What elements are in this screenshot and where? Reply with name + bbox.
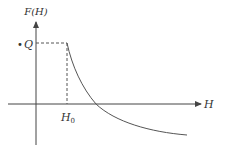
diagram-canvas: F(H) H • Q H0 bbox=[0, 0, 229, 158]
q-label: Q bbox=[24, 38, 33, 51]
q-bullet: • bbox=[17, 39, 23, 50]
h0-label-subscript: 0 bbox=[71, 117, 75, 125]
y-axis-label: F(H) bbox=[23, 6, 48, 17]
f-curve bbox=[67, 43, 187, 135]
h0-label: H0 bbox=[60, 111, 75, 125]
x-axis-label: H bbox=[203, 98, 214, 111]
h0-label-main: H bbox=[60, 111, 71, 124]
